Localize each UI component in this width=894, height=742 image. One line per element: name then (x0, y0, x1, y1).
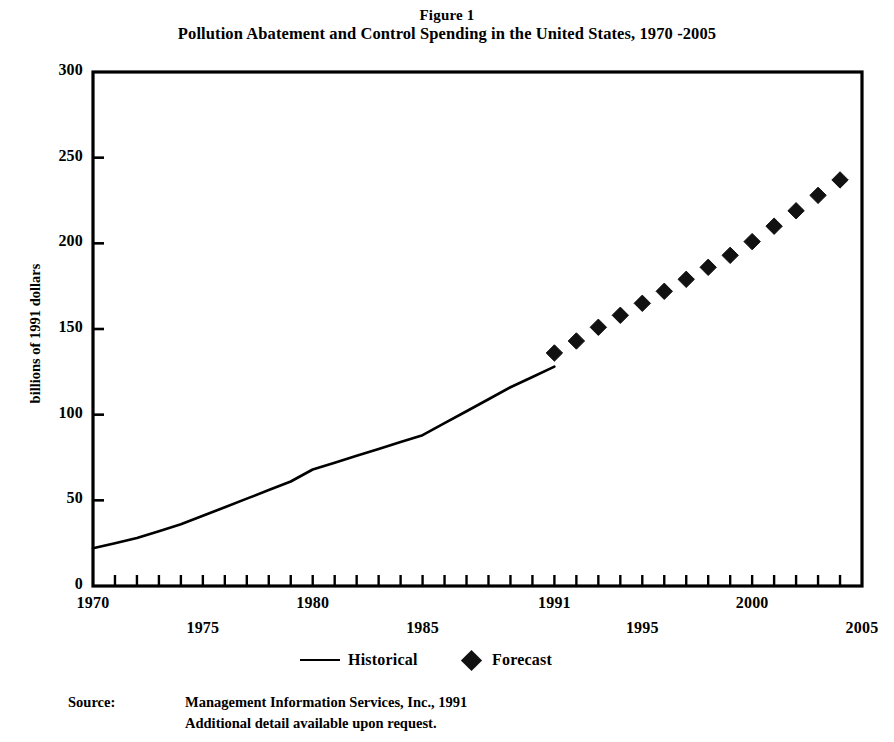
x-tick-label: 1975 (173, 619, 233, 637)
y-tick-label: 150 (37, 318, 83, 336)
y-tick-label: 100 (37, 404, 83, 422)
y-tick-label: 250 (37, 147, 83, 165)
y-tick-label: 300 (37, 61, 83, 79)
axis-frame (93, 72, 862, 586)
diamond-swatch-icon (461, 649, 482, 670)
chart-legend: Historical Forecast (300, 649, 600, 675)
y-tick-label: 0 (37, 575, 83, 593)
y-axis-title: billions of 1991 dollars (27, 214, 44, 454)
source-label: Source: (68, 692, 115, 713)
y-axis-ticks (93, 158, 104, 501)
figure-root: Figure 1 Pollution Abatement and Control… (0, 0, 894, 742)
x-tick-label: 1980 (283, 594, 343, 612)
x-tick-label: 1995 (612, 619, 672, 637)
x-tick-label: 1991 (524, 594, 584, 612)
x-axis-minor-ticks (115, 575, 840, 586)
source-line-2: Additional detail available upon request… (185, 713, 467, 734)
legend-item-forecast: Forecast (460, 649, 552, 671)
legend-label-forecast: Forecast (492, 651, 552, 669)
y-tick-label: 200 (37, 232, 83, 250)
legend-label-historical: Historical (348, 651, 418, 669)
line-swatch-icon (300, 659, 340, 661)
plot-area: 050100150200250300 197019751980198519911… (0, 0, 894, 742)
x-tick-label: 1970 (63, 594, 123, 612)
source-line-1: Management Information Services, Inc., 1… (185, 692, 467, 713)
x-tick-label: 2000 (722, 594, 782, 612)
series-historical-line (93, 367, 554, 549)
x-tick-label: 2005 (832, 619, 892, 637)
y-tick-label: 50 (37, 489, 83, 507)
source-text: Management Information Services, Inc., 1… (185, 692, 467, 733)
x-tick-label: 1985 (393, 619, 453, 637)
series-forecast-markers (546, 172, 848, 361)
legend-item-historical: Historical (300, 649, 418, 671)
